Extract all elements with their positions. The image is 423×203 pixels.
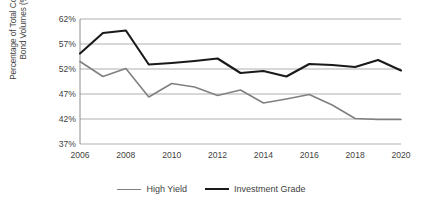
x-tick-label: 2012: [208, 150, 227, 160]
x-axis-tick-labels: 20062008201020122014201620182020: [0, 150, 423, 164]
gridlines: [80, 19, 401, 144]
legend-label: Investment Grade: [234, 184, 306, 194]
legend-item-investment-grade[interactable]: Investment Grade: [205, 184, 306, 194]
x-tick-label: 2006: [70, 150, 89, 160]
x-tick-label: 2018: [346, 150, 365, 160]
x-tick-label: 2008: [116, 150, 135, 160]
x-tick-label: 2016: [300, 150, 319, 160]
plot-area: [0, 0, 423, 203]
bond-volume-line-chart: Percentage of Total Corporate Bond Volum…: [0, 0, 423, 203]
x-tick-label: 2020: [391, 150, 410, 160]
chart-legend: High YieldInvestment Grade: [0, 180, 423, 198]
series-line-investment-grade: [80, 31, 401, 77]
legend-item-high-yield[interactable]: High Yield: [117, 184, 187, 194]
legend-label: High Yield: [146, 184, 187, 194]
x-tick-label: 2010: [162, 150, 181, 160]
series-line-high-yield: [80, 62, 401, 120]
legend-line-swatch: [117, 189, 141, 190]
legend-line-swatch: [205, 188, 229, 190]
x-tick-label: 2014: [254, 150, 273, 160]
